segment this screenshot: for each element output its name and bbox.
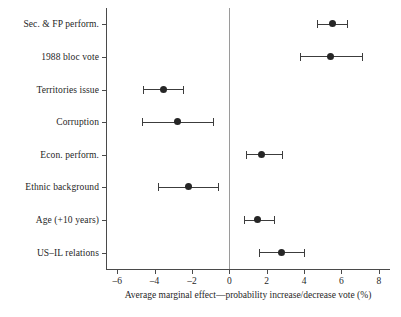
y-axis-tick — [102, 155, 107, 156]
confidence-interval-cap — [213, 118, 214, 126]
x-axis-tick-label: –4 — [140, 276, 170, 287]
estimate-point — [258, 151, 265, 158]
x-axis-tick — [117, 270, 118, 274]
y-axis-category-label: Ethnic background — [0, 182, 99, 192]
confidence-interval-cap — [300, 53, 301, 61]
confidence-interval-cap — [246, 151, 247, 159]
y-axis-category-label: Territories issue — [0, 85, 99, 95]
y-axis-category-label: Age (+10 years) — [0, 215, 99, 225]
x-axis-line — [106, 269, 390, 270]
x-axis-tick — [304, 270, 305, 274]
confidence-interval-cap — [317, 20, 318, 28]
y-axis-tick — [102, 220, 107, 221]
confidence-interval-cap — [282, 151, 283, 159]
confidence-interval-cap — [347, 20, 348, 28]
y-axis-line — [106, 8, 107, 269]
x-axis-tick — [267, 270, 268, 274]
y-axis-tick — [102, 90, 107, 91]
confidence-interval-cap — [304, 249, 305, 257]
x-axis-title: Average marginal effect—probability incr… — [106, 290, 390, 301]
y-axis-category-label: Sec. & FP perform. — [0, 19, 99, 29]
coefficient-plot-figure: Average marginal effect—probability incr… — [0, 0, 401, 317]
y-axis-tick — [102, 187, 107, 188]
estimate-point — [160, 86, 167, 93]
confidence-interval-cap — [142, 118, 143, 126]
estimate-point — [278, 249, 285, 256]
x-axis-tick-label: –2 — [177, 276, 207, 287]
y-axis-category-label: US–IL relations — [0, 248, 99, 258]
x-axis-tick-label: 4 — [289, 276, 319, 287]
y-axis-category-label: Econ. perform. — [0, 150, 99, 160]
estimate-point — [174, 118, 181, 125]
confidence-interval-cap — [244, 216, 245, 224]
x-axis-tick — [341, 270, 342, 274]
y-axis-tick — [102, 122, 107, 123]
confidence-interval-cap — [158, 183, 159, 191]
x-axis-tick-label: 0 — [214, 276, 244, 287]
estimate-point — [327, 53, 334, 60]
y-axis-tick — [102, 57, 107, 58]
y-axis-category-label: 1988 bloc vote — [0, 52, 99, 62]
x-axis-tick-label: 8 — [364, 276, 394, 287]
estimate-point — [254, 216, 261, 223]
y-axis-tick — [102, 253, 107, 254]
x-axis-tick — [379, 270, 380, 274]
x-axis-tick — [192, 270, 193, 274]
x-axis-tick — [155, 270, 156, 274]
zero-reference-line — [229, 8, 230, 269]
x-axis-tick-label: –6 — [102, 276, 132, 287]
confidence-interval-cap — [143, 86, 144, 94]
confidence-interval-cap — [218, 183, 219, 191]
confidence-interval-cap — [362, 53, 363, 61]
confidence-interval-cap — [274, 216, 275, 224]
x-axis-tick-label: 6 — [326, 276, 356, 287]
estimate-point — [185, 183, 192, 190]
confidence-interval-cap — [183, 86, 184, 94]
confidence-interval-cap — [259, 249, 260, 257]
estimate-point — [329, 20, 336, 27]
y-axis-tick — [102, 24, 107, 25]
x-axis-tick — [229, 270, 230, 274]
y-axis-category-label: Corruption — [0, 117, 99, 127]
x-axis-tick-label: 2 — [252, 276, 282, 287]
